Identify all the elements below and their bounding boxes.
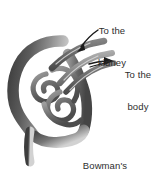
label-bowmans-capsule-line1: Bowman's [62,161,148,172]
label-to-the-kidney-line1: To the [89,26,135,37]
label-bowmans-capsule: Bowman's capsule [62,140,148,181]
label-to-the-body-line2: body [117,102,159,113]
nephron-diagram-figure: To the kidney To the body Bowman's capsu… [0,0,159,181]
label-to-the-body: To the body [117,49,159,133]
label-to-the-body-line1: To the [117,70,159,81]
glomerulus-capillary-coil [33,68,81,124]
